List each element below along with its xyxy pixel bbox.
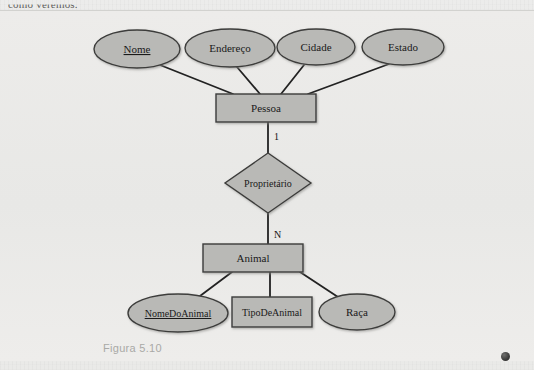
entity-animal-label: Animal <box>237 252 270 264</box>
connector-nome-pessoa <box>160 65 233 94</box>
er-diagram: Nome Endereço Cidade Estado Pessoa <box>0 11 534 361</box>
relationship-proprietario[interactable]: Proprietário <box>225 153 311 213</box>
connector-cidade-pessoa <box>281 65 304 94</box>
attribute-estado[interactable]: Estado <box>362 29 444 65</box>
attribute-tipodeanimal-label: TipoDeAnimal <box>242 307 302 318</box>
attribute-raca[interactable]: Raça <box>319 294 395 330</box>
running-body-text: como veremos. <box>8 0 78 10</box>
attribute-nomedoanimal[interactable]: NomeDoAnimal <box>128 294 228 332</box>
connector-endereco-pessoa <box>237 67 260 94</box>
attribute-nome-label: Nome <box>124 43 151 55</box>
attribute-nome[interactable]: Nome <box>94 30 180 68</box>
entity-pessoa-label: Pessoa <box>251 102 281 114</box>
relationship-proprietario-label: Proprietário <box>244 178 292 189</box>
connector-estado-pessoa <box>308 64 389 94</box>
figure-caption: Figura 5.10 <box>103 342 162 354</box>
attribute-nomedoanimal-label: NomeDoAnimal <box>145 308 212 319</box>
attribute-endereco[interactable]: Endereço <box>185 29 275 67</box>
connector-animal-nomedoanimal <box>196 272 232 299</box>
cardinality-label-one: 1 <box>274 131 279 142</box>
figure-panel: Nome Endereço Cidade Estado Pessoa <box>0 10 534 361</box>
entity-pessoa[interactable]: Pessoa <box>216 94 316 122</box>
entity-animal[interactable]: Animal <box>203 244 303 272</box>
attribute-endereco-label: Endereço <box>209 42 251 54</box>
attribute-raca-label: Raça <box>346 306 368 318</box>
attribute-cidade[interactable]: Cidade <box>277 29 355 65</box>
attribute-cidade-label: Cidade <box>300 41 331 53</box>
cardinality-label-n: N <box>274 229 281 240</box>
connector-animal-raca <box>300 272 341 299</box>
attribute-estado-label: Estado <box>388 41 418 53</box>
figure-page: como veremos. <box>0 0 534 370</box>
page-marker-dot <box>501 352 510 361</box>
attribute-tipodeanimal[interactable]: TipoDeAnimal <box>232 297 312 327</box>
